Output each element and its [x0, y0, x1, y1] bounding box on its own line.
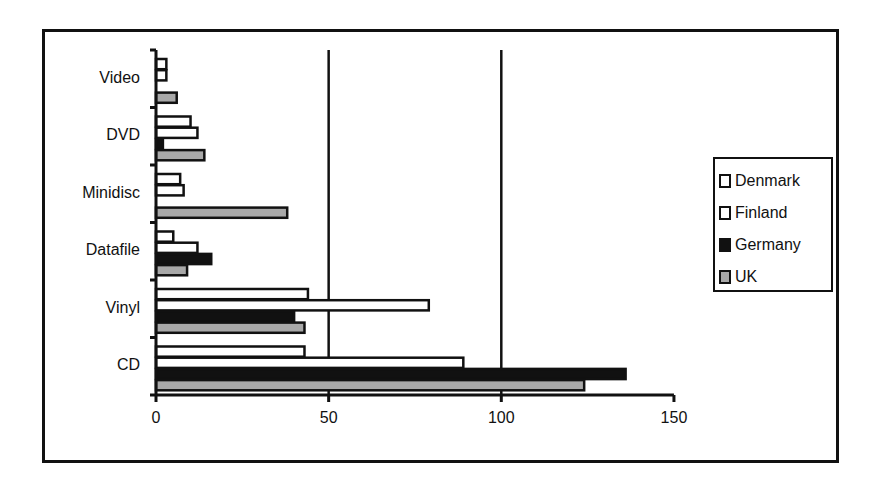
- bar-denmark-minidisc: [156, 174, 180, 184]
- legend-item-finland: Finland: [719, 197, 827, 229]
- bar-finland-minidisc: [156, 185, 184, 195]
- legend-swatch-icon: [719, 206, 731, 220]
- category-label: Vinyl: [40, 299, 140, 317]
- legend-label: Finland: [735, 204, 787, 222]
- bar-finland-vinyl: [156, 300, 429, 310]
- bar-germany-cd: [156, 369, 626, 379]
- legend-label: Germany: [735, 236, 801, 254]
- bar-uk-vinyl: [156, 323, 304, 333]
- legend-label: Denmark: [735, 172, 800, 190]
- category-label: DVD: [40, 126, 140, 144]
- bar-finland-datafile: [156, 243, 197, 253]
- legend-label: UK: [735, 268, 757, 286]
- bar-finland-video: [156, 70, 166, 80]
- legend-swatch-icon: [719, 174, 731, 188]
- legend-swatch-icon: [719, 270, 731, 284]
- bar-denmark-vinyl: [156, 289, 308, 299]
- bar-uk-cd: [156, 380, 584, 390]
- category-label: Video: [40, 69, 140, 87]
- bar-uk-datafile: [156, 265, 187, 275]
- legend-item-denmark: Denmark: [719, 165, 827, 197]
- bar-germany-datafile: [156, 254, 211, 264]
- bar-uk-dvd: [156, 150, 204, 160]
- category-label: Minidisc: [40, 184, 140, 202]
- x-tick-label: 50: [309, 409, 349, 427]
- bar-germany-vinyl: [156, 311, 294, 321]
- bar-uk-video: [156, 93, 177, 103]
- legend-swatch-icon: [719, 238, 731, 252]
- category-label: Datafile: [40, 241, 140, 259]
- chart-legend: Denmark Finland Germany UK: [713, 157, 833, 292]
- bar-denmark-datafile: [156, 232, 173, 242]
- x-tick-label: 150: [654, 409, 694, 427]
- bar-finland-dvd: [156, 128, 197, 138]
- legend-item-germany: Germany: [719, 229, 827, 261]
- bar-denmark-video: [156, 59, 166, 69]
- category-label: CD: [40, 356, 140, 374]
- bar-denmark-cd: [156, 347, 304, 357]
- bar-uk-minidisc: [156, 208, 287, 218]
- bar-finland-cd: [156, 358, 463, 368]
- x-tick-label: 100: [481, 409, 521, 427]
- bar-denmark-dvd: [156, 117, 191, 127]
- x-tick-label: 0: [136, 409, 176, 427]
- legend-item-uk: UK: [719, 261, 827, 293]
